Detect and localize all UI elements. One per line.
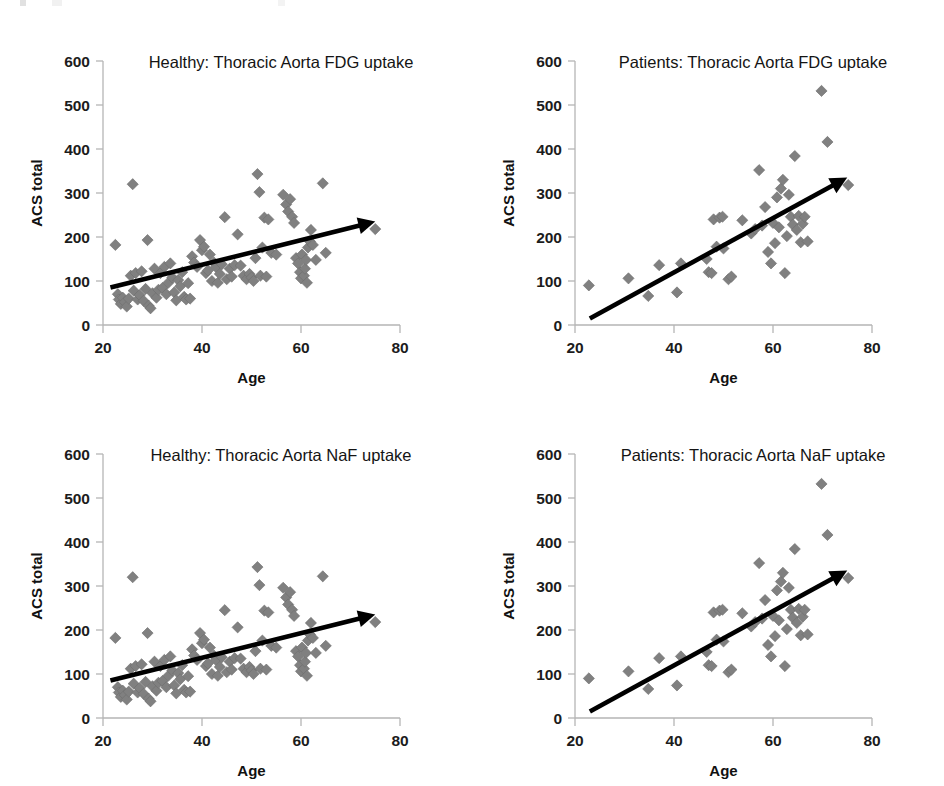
x-tick-label: 20 [94, 339, 111, 356]
x-tick-label: 40 [193, 339, 210, 356]
scatter-point [781, 231, 792, 242]
x-tick-label: 40 [665, 732, 682, 749]
scatter-point [310, 647, 321, 658]
scatter-point [317, 571, 328, 582]
scatter-point [762, 639, 773, 650]
y-axis-title: ACS total [28, 552, 45, 620]
scatter-point [252, 168, 263, 179]
y-tick-label: 300 [536, 578, 562, 595]
scatter-point [310, 254, 321, 265]
scatter-point [370, 616, 381, 627]
x-tick-label: 80 [391, 339, 408, 356]
scatter-point [127, 179, 138, 190]
y-tick-label: 600 [64, 446, 90, 463]
scatter-point [671, 287, 682, 298]
chart-panel-healthy-fdg: 010020030040050060020406080Healthy: Thor… [0, 0, 472, 393]
x-axis-title: Age [237, 369, 265, 386]
x-axis-title: Age [709, 762, 737, 779]
y-tick-label: 200 [536, 622, 562, 639]
x-tick-label: 60 [764, 732, 781, 749]
x-tick-label: 40 [665, 339, 682, 356]
chart-svg-healthy-fdg: 010020030040050060020406080Healthy: Thor… [0, 0, 472, 393]
y-tick-label: 200 [536, 229, 562, 246]
scatter-point [765, 651, 776, 662]
scatter-point [305, 224, 316, 235]
y-axis-title: ACS total [500, 159, 517, 227]
scatter-point [802, 236, 813, 247]
scatter-point [769, 631, 780, 642]
scatter-point [142, 234, 153, 245]
chart-title: Patients: Thoracic Aorta NaF uptake [621, 446, 886, 464]
scatter-point [623, 273, 634, 284]
y-tick-label: 400 [64, 534, 90, 551]
x-axis-title: Age [709, 369, 737, 386]
scatter-point [305, 617, 316, 628]
trend-line [590, 184, 835, 318]
y-tick-label: 600 [64, 53, 90, 70]
chart-svg-patients-fdg: 010020030040050060020406080Patients: Tho… [472, 0, 944, 393]
y-tick-label: 200 [64, 229, 90, 246]
scatter-point [320, 247, 331, 258]
chart-title: Patients: Thoracic Aorta FDG uptake [619, 53, 887, 71]
x-tick-label: 80 [863, 732, 880, 749]
y-tick-label: 100 [64, 273, 90, 290]
y-tick-label: 400 [536, 141, 562, 158]
scatter-point [219, 212, 230, 223]
scatter-point [822, 529, 833, 540]
scatter-point [765, 258, 776, 269]
scatter-point [777, 567, 788, 578]
scatter-point [737, 215, 748, 226]
y-tick-label: 300 [536, 185, 562, 202]
scatter-point [317, 178, 328, 189]
scatter-point [779, 267, 790, 278]
x-tick-label: 60 [292, 732, 309, 749]
scatter-point [232, 622, 243, 633]
x-tick-label: 40 [193, 732, 210, 749]
y-tick-label: 500 [64, 490, 90, 507]
x-tick-label: 80 [391, 732, 408, 749]
y-tick-label: 200 [64, 622, 90, 639]
scatter-point [643, 290, 654, 301]
chart-title: Healthy: Thoracic Aorta FDG uptake [149, 53, 414, 71]
scatter-point [816, 85, 827, 96]
trend-line [590, 577, 835, 711]
scatter-points-group [583, 478, 854, 694]
scatter-point [643, 683, 654, 694]
x-tick-label: 20 [566, 339, 583, 356]
chart-svg-patients-naf: 010020030040050060020406080Patients: Tho… [472, 393, 944, 786]
scatter-point [779, 660, 790, 671]
y-tick-label: 500 [536, 97, 562, 114]
scatter-point [802, 629, 813, 640]
figure-page: 010020030040050060020406080Healthy: Thor… [0, 0, 944, 786]
y-tick-label: 100 [536, 666, 562, 683]
x-tick-label: 20 [94, 732, 111, 749]
scatter-point [623, 666, 634, 677]
chart-svg-healthy-naf: 010020030040050060020406080Healthy: Thor… [0, 393, 472, 786]
scatter-point [769, 238, 780, 249]
scatter-point [783, 189, 794, 200]
scatter-point [254, 187, 265, 198]
y-tick-label: 100 [64, 666, 90, 683]
x-tick-label: 60 [292, 339, 309, 356]
y-tick-label: 300 [64, 578, 90, 595]
chart-panel-patients-naf: 010020030040050060020406080Patients: Tho… [472, 393, 944, 786]
scatter-point [252, 561, 263, 572]
scatter-point [762, 246, 773, 257]
scatter-point [254, 580, 265, 591]
scatter-point [816, 478, 827, 489]
x-tick-label: 20 [566, 732, 583, 749]
scatter-points-group [583, 85, 854, 301]
scatter-point [783, 582, 794, 593]
y-tick-label: 300 [64, 185, 90, 202]
scatter-points-group [110, 168, 381, 313]
scatter-point [219, 605, 230, 616]
y-tick-label: 0 [81, 710, 90, 727]
scatter-point [370, 223, 381, 234]
chart-title: Healthy: Thoracic Aorta NaF uptake [150, 446, 411, 464]
scatter-point [654, 653, 665, 664]
y-tick-label: 600 [536, 53, 562, 70]
y-tick-label: 0 [81, 317, 90, 334]
chart-panel-patients-fdg: 010020030040050060020406080Patients: Tho… [472, 0, 944, 393]
scatter-point [789, 543, 800, 554]
scatter-point [822, 136, 833, 147]
